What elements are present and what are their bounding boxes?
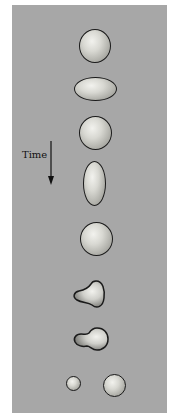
- droplet-stage-2: [74, 77, 117, 101]
- droplet-stage-7: [72, 326, 110, 352]
- droplet-stage-3: [79, 116, 112, 150]
- droplet-stage-6: [70, 278, 110, 312]
- time-label: Time: [22, 149, 47, 160]
- droplet-stage-5: [80, 222, 113, 256]
- droplet-stage-8-large: [103, 374, 126, 397]
- droplet-stage-4: [83, 161, 106, 206]
- time-arrow-icon: [47, 140, 55, 186]
- droplet-stage-8-small: [66, 376, 81, 391]
- droplet-stage-1: [79, 29, 111, 63]
